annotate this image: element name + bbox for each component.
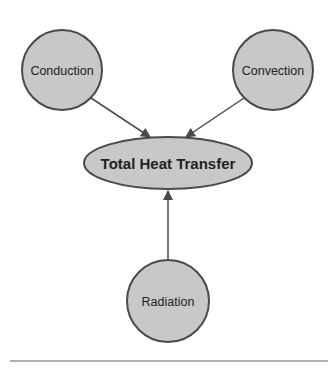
node-convection[interactable]: Convection — [233, 30, 313, 110]
node-total-heat-transfer[interactable]: Total Heat Transfer — [84, 137, 252, 189]
node-radiation-label: Radiation — [142, 295, 195, 309]
node-total-heat-transfer-label: Total Heat Transfer — [101, 155, 236, 172]
edge-conduction-to-total — [91, 98, 150, 137]
edge-convection-to-total — [186, 98, 244, 137]
node-conduction[interactable]: Conduction — [22, 30, 102, 110]
node-conduction-label: Conduction — [30, 64, 93, 78]
node-convection-label: Convection — [242, 64, 305, 78]
diagram-canvas: Conduction Convection Total Heat Transfe… — [0, 0, 336, 368]
node-radiation[interactable]: Radiation — [127, 260, 209, 342]
